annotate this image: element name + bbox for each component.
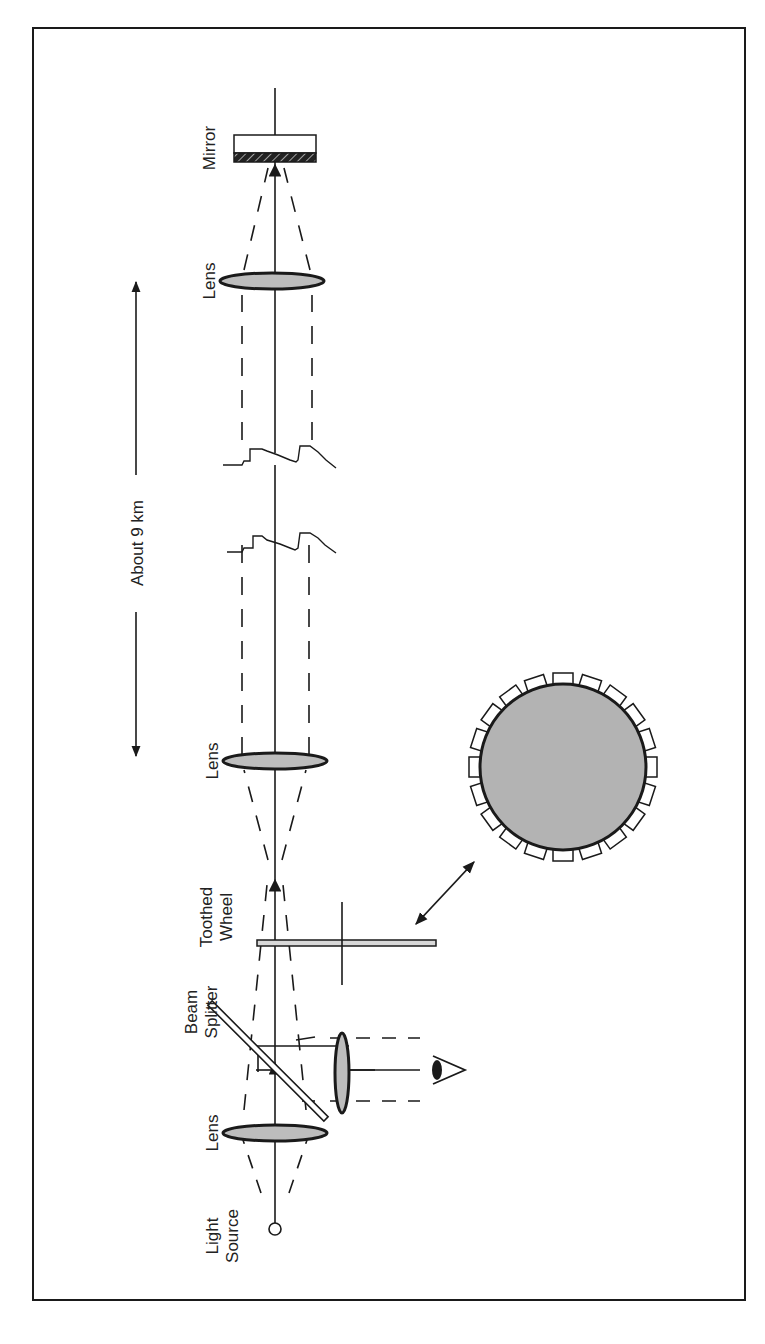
toothed-wheel-face — [469, 673, 657, 861]
lens-2 — [223, 753, 327, 769]
figure-frame — [33, 28, 745, 1300]
label-distance: About 9 km — [128, 500, 147, 586]
label-lens-1: Lens — [203, 1115, 222, 1152]
wheel-relation-arrow — [416, 862, 474, 924]
lens-3 — [220, 273, 324, 289]
terrain-break — [223, 446, 336, 553]
label-beam-splitter: BeamSplitter — [182, 985, 221, 1038]
label-light-source: LightSource — [203, 1209, 242, 1263]
mirror — [234, 135, 316, 162]
label-toothed-wheel: ToothedWheel — [197, 887, 236, 948]
eyepiece-lens — [335, 1033, 349, 1113]
beam-splitter — [208, 1001, 328, 1121]
label-mirror: Mirror — [200, 125, 219, 170]
light-source-icon — [269, 1223, 281, 1235]
toothed-wheel-side — [257, 940, 436, 946]
eye-icon — [432, 1056, 465, 1084]
label-lens-2: Lens — [203, 743, 222, 780]
lens-1 — [223, 1125, 327, 1141]
fizeau-diagram: LightSource Lens BeamSplitter ToothedWhe… — [0, 0, 765, 1344]
label-lens-3: Lens — [200, 263, 219, 300]
